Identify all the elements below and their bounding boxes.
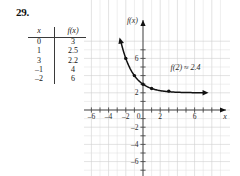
data-point bbox=[167, 89, 170, 92]
data-point bbox=[150, 87, 153, 90]
annotation-label: f(2) ≈ 2.4 bbox=[171, 63, 201, 72]
y-axis-arrow-icon bbox=[140, 20, 145, 26]
table-cell-x: 1 bbox=[28, 47, 55, 56]
problem-number: 29. bbox=[16, 6, 29, 18]
y-tick-label: –4 bbox=[130, 140, 139, 149]
table-header-x: x bbox=[28, 27, 55, 37]
grid-layer bbox=[84, 0, 230, 176]
x-axis-label: x bbox=[222, 112, 227, 121]
curve-left-arrow-icon bbox=[118, 37, 124, 44]
data-point bbox=[141, 83, 144, 86]
x-tick-label: 2 bbox=[158, 112, 162, 121]
y-tick-label: 6 bbox=[135, 54, 139, 63]
table-cell-x: 3 bbox=[28, 56, 55, 65]
value-table: x f(x) 0 3 1 2.5 3 2.2 –1 4 –2 6 bbox=[28, 27, 86, 84]
x-tick-label: 6 bbox=[193, 112, 197, 121]
y-axis-label: f(x) bbox=[127, 16, 138, 25]
data-point bbox=[133, 74, 136, 77]
table-row: –2 6 bbox=[28, 74, 86, 83]
x-tick-label: –4 bbox=[104, 112, 113, 121]
x-tick-labels: –6–4–2026 bbox=[87, 112, 197, 121]
x-tick-label: –2 bbox=[121, 112, 130, 121]
table-cell-x: 0 bbox=[28, 37, 55, 47]
coordinate-plane: –6–4–2026 62–2–4–6 x f(x) f(2) ≈ 2.4 bbox=[84, 0, 230, 176]
data-point bbox=[124, 57, 127, 60]
problem-figure: 29. x f(x) 0 3 1 2.5 3 2.2 –1 4 bbox=[0, 0, 240, 176]
y-tick-label: –6 bbox=[130, 157, 139, 166]
curve-right-arrow-icon bbox=[203, 90, 209, 95]
table-header-row: x f(x) bbox=[28, 27, 86, 37]
table-row: 1 2.5 bbox=[28, 47, 86, 56]
y-tick-label: –2 bbox=[130, 123, 139, 132]
x-tick-label: 0 bbox=[137, 112, 141, 121]
table-cell-fx: 2.5 bbox=[55, 47, 87, 56]
table-row: 3 2.2 bbox=[28, 56, 86, 65]
y-tick-label: 2 bbox=[135, 88, 139, 97]
x-tick-label: –6 bbox=[87, 112, 96, 121]
graph-panel: –6–4–2026 62–2–4–6 x f(x) f(2) ≈ 2.4 bbox=[84, 0, 230, 176]
table-cell-x: –2 bbox=[28, 74, 55, 83]
table-cell-fx: 2.2 bbox=[55, 56, 87, 65]
table-header-fx: f(x) bbox=[55, 27, 87, 37]
table-cell-fx: 6 bbox=[55, 74, 87, 83]
